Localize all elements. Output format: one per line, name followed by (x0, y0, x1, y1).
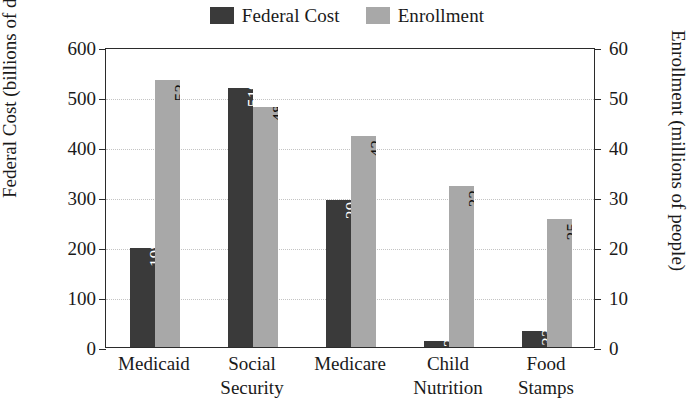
bar-value-label: 48 (266, 107, 279, 122)
right-tick-mark (594, 249, 601, 250)
right-tick-mark (594, 199, 601, 200)
bar-enrollment[interactable]: 53.4 (155, 80, 180, 347)
right-axis-tick-labels: 0102030405060 (609, 48, 665, 348)
bar-group: 3325.7 (498, 49, 596, 347)
right-tick-mark (594, 349, 601, 350)
bar-value-label: 53.4 (168, 80, 181, 101)
bar-federal-cost[interactable]: 294 (326, 200, 351, 347)
left-axis-title: Federal Cost (billions of dollars) (0, 0, 19, 198)
bar-enrollment[interactable]: 32.3 (449, 186, 474, 348)
left-tick-mark (99, 199, 106, 200)
legend-swatch-enrollment (366, 7, 390, 24)
left-tick-label: 600 (68, 39, 97, 58)
bar-enrollment[interactable]: 48 (253, 107, 278, 347)
right-tick-mark (594, 149, 601, 150)
bar-value-label: 12 (437, 341, 450, 347)
bar-value-label: 25.7 (560, 219, 573, 240)
left-tick-label: 300 (68, 189, 97, 208)
legend-label-enrollment: Enrollment (398, 6, 484, 25)
right-tick-mark (594, 299, 601, 300)
bar-value-label: 32.3 (462, 186, 475, 207)
left-tick-label: 400 (68, 139, 97, 158)
bar-enrollment[interactable]: 42.3 (351, 136, 376, 348)
bar-value-label: 294 (339, 200, 352, 219)
left-tick-mark (99, 299, 106, 300)
legend-swatch-federal-cost (210, 7, 234, 24)
right-tick-mark (594, 99, 601, 100)
left-tick-mark (99, 249, 106, 250)
legend-label-federal-cost: Federal Cost (242, 6, 340, 25)
right-tick-label: 60 (609, 39, 628, 58)
right-tick-label: 40 (609, 139, 628, 158)
chart-legend: Federal Cost Enrollment (0, 2, 694, 28)
bar-value-label: 33 (535, 331, 548, 346)
x-axis-label-line: Stamps (476, 376, 616, 400)
bar-enrollment[interactable]: 25.7 (547, 219, 572, 348)
legend-entry-federal-cost: Federal Cost (210, 6, 340, 25)
left-tick-mark (99, 349, 106, 350)
left-axis-tick-labels: 0100200300400500600 (40, 48, 96, 348)
left-tick-label: 100 (68, 289, 97, 308)
x-axis-label-food-stamps: FoodStamps (476, 352, 616, 400)
bar-federal-cost[interactable]: 198 (130, 248, 155, 347)
left-tick-label: 500 (68, 89, 97, 108)
bar-group: 51948 (204, 49, 302, 347)
bar-group: 19853.4 (106, 49, 204, 347)
left-tick-mark (99, 149, 106, 150)
bar-value-label: 198 (143, 248, 156, 267)
bar-federal-cost[interactable]: 12 (424, 341, 449, 347)
right-tick-label: 10 (609, 289, 628, 308)
x-axis-label-line: Security (182, 376, 322, 400)
bar-series-container: 19853.45194829442.31232.33325.7 (106, 49, 594, 347)
left-tick-mark (99, 99, 106, 100)
right-tick-label: 30 (609, 189, 628, 208)
legend-entry-enrollment: Enrollment (366, 6, 484, 25)
right-axis-title: Enrollment (millions of people) (669, 30, 688, 271)
right-tick-label: 50 (609, 89, 628, 108)
right-tick-label: 20 (609, 239, 628, 258)
left-tick-label: 200 (68, 239, 97, 258)
bar-chart: Federal Cost Enrollment Federal Cost (bi… (0, 0, 694, 412)
bar-value-label: 519 (241, 88, 254, 107)
plot-area: 19853.45194829442.31232.33325.7 (105, 48, 595, 348)
x-axis-label-line: Food (476, 352, 616, 376)
bar-group: 29442.3 (302, 49, 400, 347)
bar-federal-cost[interactable]: 33 (522, 331, 547, 348)
right-tick-mark (594, 49, 601, 50)
bar-federal-cost[interactable]: 519 (228, 88, 253, 348)
bar-value-label: 42.3 (364, 136, 377, 157)
left-tick-mark (99, 49, 106, 50)
x-axis-category-labels: MedicaidSocialSecurityMedicareChildNutri… (105, 352, 595, 408)
bar-group: 1232.3 (400, 49, 498, 347)
